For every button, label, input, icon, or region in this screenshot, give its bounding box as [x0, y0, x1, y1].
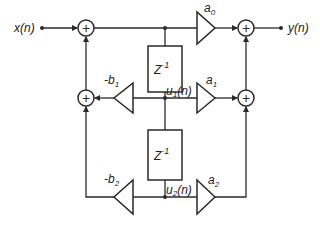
input-node: x(n) [13, 21, 44, 35]
svg-text:a1: a1 [206, 73, 217, 89]
svg-text:-b2: -b2 [104, 172, 120, 188]
filter-diagram: x(n) + a0 + y(n) Z-1 u1(n) -b1 + [0, 0, 320, 228]
adder-output: + [238, 20, 254, 36]
svg-text:+: + [82, 20, 90, 36]
adder-input: + [78, 20, 94, 36]
delay-2: Z-1 [148, 130, 182, 180]
adder-b1: + [78, 90, 94, 106]
gain-minus-b1: -b1 [104, 73, 133, 113]
gain-a1: a1 [197, 73, 217, 113]
svg-text:a0: a0 [204, 1, 216, 17]
u2-label: u2(n) [166, 183, 192, 198]
gain-minus-b2: -b2 [104, 172, 133, 214]
input-label: x(n) [13, 21, 35, 35]
svg-text:+: + [82, 90, 90, 106]
svg-text:+: + [242, 20, 250, 36]
output-label: y(n) [287, 21, 309, 35]
gain-a0: a0 [197, 1, 216, 44]
svg-text:+: + [242, 90, 250, 106]
svg-text:-b1: -b1 [104, 73, 119, 89]
u1-label: u1(n) [166, 84, 192, 99]
adder-a1: + [238, 90, 254, 106]
output-dot [279, 26, 283, 30]
gain-a2: a2 [197, 173, 220, 214]
svg-text:a2: a2 [208, 173, 220, 189]
